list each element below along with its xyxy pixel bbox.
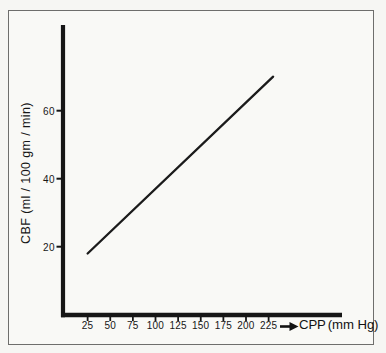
data-line: [88, 77, 274, 254]
x-tick-label: 100: [147, 320, 164, 331]
x-tick-label: 25: [82, 320, 94, 331]
x-tick-label: 50: [104, 320, 116, 331]
figure-canvas: CBF (ml / 100 gm / min) CPP (mm Hg) 2550…: [0, 0, 386, 353]
x-axis-label: CPP: [299, 317, 326, 332]
right-arrow-icon: [280, 322, 299, 331]
y-tick-label: 20: [29, 241, 55, 252]
x-tick-label: 175: [215, 320, 232, 331]
x-tick-label: 125: [169, 320, 186, 331]
x-axis-units: (mm Hg): [328, 317, 379, 332]
x-tick-label: 75: [127, 320, 139, 331]
y-tick-label: 40: [29, 173, 55, 184]
plot-svg: [0, 0, 386, 353]
x-tick-label: 150: [192, 320, 209, 331]
x-axis-title: CPP (mm Hg): [299, 317, 378, 332]
x-tick-label: 200: [237, 320, 254, 331]
y-tick-label: 60: [29, 105, 55, 116]
x-tick-label: 225: [260, 320, 277, 331]
